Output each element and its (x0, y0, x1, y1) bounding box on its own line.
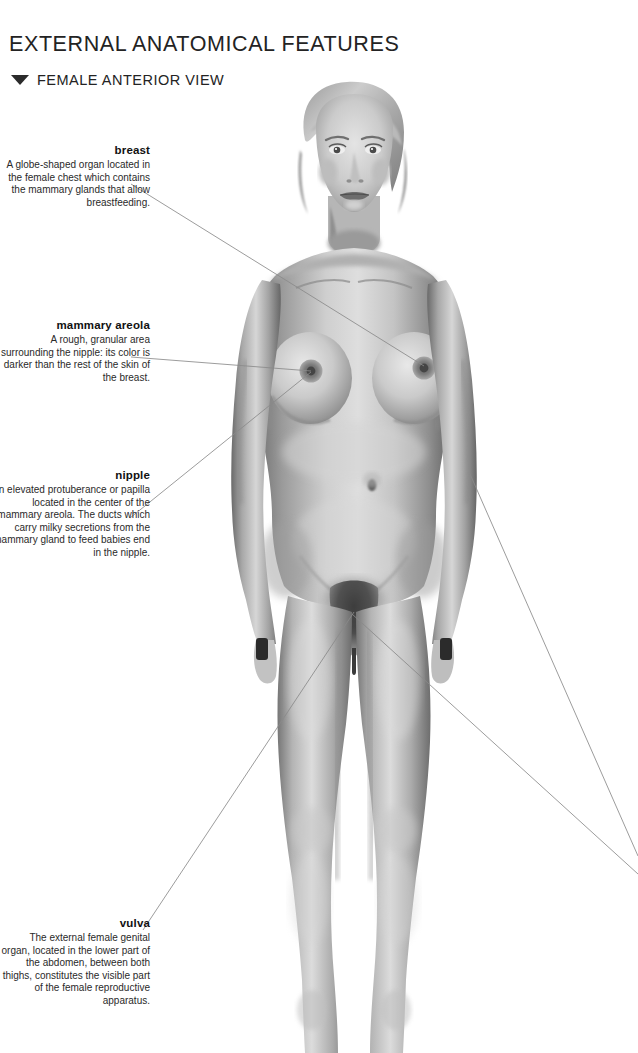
annotation-term: mammary areola (0, 318, 150, 332)
hand-object-right (440, 638, 452, 660)
subtitle-label: FEMALE ANTERIOR VIEW (37, 72, 224, 88)
torso (255, 248, 453, 608)
annotation-description: The external female genital organ, locat… (0, 932, 150, 1008)
subtitle-row: FEMALE ANTERIOR VIEW (11, 72, 224, 88)
hand-object-left (256, 638, 268, 660)
face (316, 94, 393, 212)
triangle-down-icon (11, 75, 29, 85)
nipple-left (307, 367, 316, 376)
annotation-term: nipple (0, 468, 150, 482)
page-title: EXTERNAL ANATOMICAL FEATURES (9, 32, 399, 57)
annotation-mammary-areola: mammary areola A rough, granular area su… (0, 318, 150, 384)
annotation-description: An elevated protuberance or papilla loca… (0, 484, 150, 560)
annotation-description: A rough, granular area surrounding the n… (0, 334, 150, 384)
annotation-vulva: vulva The external female genital organ,… (0, 916, 150, 1008)
annotation-description: A globe-shaped organ located in the fema… (0, 159, 150, 209)
annotation-nipple: nipple An elevated protuberance or papil… (0, 468, 150, 560)
nipple-right (420, 364, 429, 373)
annotation-term: vulva (0, 916, 150, 930)
annotation-term: breast (0, 143, 150, 157)
annotation-breast: breast A globe-shaped organ located in t… (0, 143, 150, 209)
